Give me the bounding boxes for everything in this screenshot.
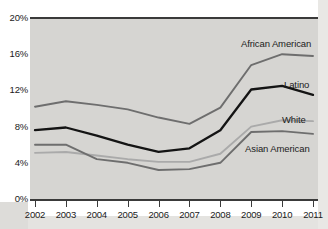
series-line-african-american [35, 54, 313, 124]
chart-figure: 20%16%12%8%4%0% 200220032004200520062007… [0, 0, 328, 229]
series-label-african-american: African American [241, 38, 311, 49]
series-label-latino: Latino [284, 79, 309, 90]
chart-series-lines [0, 0, 328, 229]
series-label-asian-american: Asian American [245, 143, 310, 154]
series-label-white: White [282, 114, 306, 125]
series-line-white [35, 120, 313, 162]
